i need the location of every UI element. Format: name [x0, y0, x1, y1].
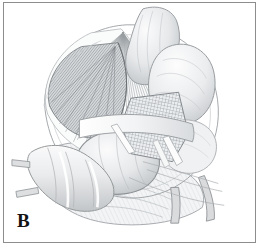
surgical-illustration [4, 3, 255, 242]
panel-label: B [17, 211, 30, 230]
vessel-stump-right-a [171, 187, 180, 223]
figure-panel: B [0, 0, 260, 246]
figure-frame-border: B [3, 2, 256, 243]
